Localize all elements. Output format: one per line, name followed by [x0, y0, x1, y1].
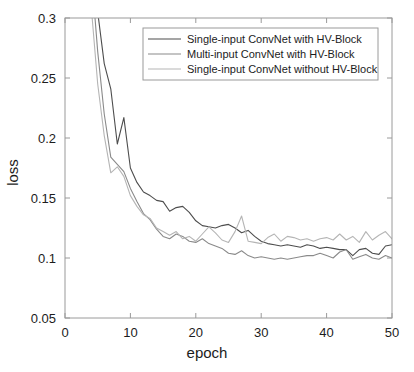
- x-tick-label: 30: [254, 325, 268, 340]
- legend-label-1: Single-input ConvNet with HV-Block: [187, 33, 362, 45]
- y-tick-label: 0.25: [0, 71, 56, 86]
- y-axis-title: loss: [4, 143, 21, 203]
- y-tick-label: 0.1: [0, 251, 56, 266]
- legend-label-2: Multi-input ConvNet with HV-Block: [187, 48, 355, 60]
- x-tick-label: 40: [319, 325, 333, 340]
- legend: Single-input ConvNet with HV-BlockMulti-…: [143, 28, 378, 80]
- x-tick-label: 10: [123, 325, 137, 340]
- legend-label-3: Single-input ConvNet without HV-Block: [187, 63, 378, 75]
- chart-figure: Single-input ConvNet with HV-BlockMulti-…: [0, 0, 414, 372]
- x-tick-label: 0: [61, 325, 68, 340]
- y-tick-label: 0.05: [0, 311, 56, 326]
- plot-canvas: Single-input ConvNet with HV-BlockMulti-…: [0, 0, 414, 372]
- x-axis-title: epoch: [0, 344, 414, 361]
- x-tick-label: 50: [385, 325, 399, 340]
- y-tick-label: 0.3: [0, 11, 56, 26]
- x-tick-label: 20: [189, 325, 203, 340]
